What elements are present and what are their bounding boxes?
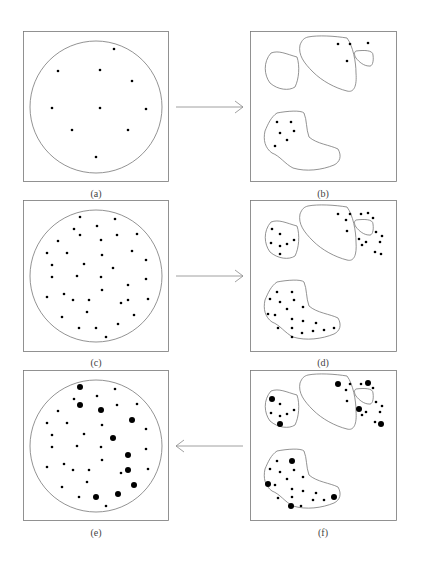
points [46, 216, 150, 339]
arrow-right-icon [176, 270, 243, 282]
arrow-left-icon [176, 440, 243, 452]
points [51, 48, 148, 159]
panel-e [24, 371, 169, 521]
caption-b: (b) [303, 188, 343, 199]
diagram-canvas [0, 0, 421, 566]
points [267, 212, 384, 339]
caption-a: (a) [76, 188, 116, 199]
sample-circle [30, 380, 162, 512]
arrow-right-icon [176, 101, 243, 113]
sample-circle [30, 210, 162, 342]
panel-b [251, 32, 397, 182]
caption-e: (e) [76, 527, 116, 538]
caption-d: (d) [303, 357, 343, 368]
panel-a [24, 32, 169, 182]
panel-c [24, 201, 169, 352]
points [265, 380, 384, 509]
caption-f: (f) [303, 527, 343, 538]
panel-d [251, 201, 397, 352]
points [274, 42, 370, 148]
sample-circle [30, 41, 162, 173]
points [46, 384, 150, 507]
caption-c: (c) [76, 357, 116, 368]
panel-f [251, 371, 397, 521]
